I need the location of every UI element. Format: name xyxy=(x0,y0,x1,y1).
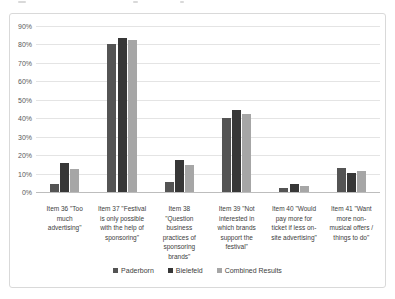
legend-item: Combined Results xyxy=(217,267,282,274)
bar xyxy=(107,44,116,192)
gridline xyxy=(36,26,380,27)
bar xyxy=(175,160,184,192)
legend-label: Paderborn xyxy=(121,267,154,274)
gridline xyxy=(36,81,380,82)
bar xyxy=(279,188,288,192)
gridline xyxy=(36,63,380,64)
bar xyxy=(165,182,174,192)
category-label: Item 39 "Not interested in which brands … xyxy=(208,204,265,261)
bar xyxy=(232,110,241,192)
bar xyxy=(347,173,356,192)
legend-item: Paderborn xyxy=(113,267,154,274)
legend-label: Combined Results xyxy=(225,267,282,274)
gridline xyxy=(36,44,380,45)
y-tick-label: 30% xyxy=(18,133,32,140)
bar xyxy=(70,169,79,192)
bar xyxy=(222,118,231,192)
legend-label: Bielefeld xyxy=(176,267,203,274)
category-axis: Item 36 "Too much advertising"Item 37 "F… xyxy=(36,204,380,261)
legend-swatch xyxy=(168,268,173,273)
category-label: Item 38 "Question business practices of … xyxy=(151,204,208,261)
cropped-text-artifact xyxy=(18,1,26,3)
bar xyxy=(300,186,309,192)
category-label: Item 40 "Would pay more for ticket if le… xyxy=(265,204,322,261)
gridline xyxy=(36,137,380,138)
y-tick-label: 80% xyxy=(18,41,32,48)
x-axis-line xyxy=(36,192,380,193)
bar xyxy=(242,114,251,192)
bar xyxy=(60,163,69,192)
y-tick-label: 0% xyxy=(22,189,32,196)
gridline xyxy=(36,100,380,101)
y-tick-label: 10% xyxy=(18,170,32,177)
bar xyxy=(118,38,127,192)
y-tick-label: 60% xyxy=(18,78,32,85)
gridline xyxy=(36,174,380,175)
legend-swatch xyxy=(113,268,118,273)
bar xyxy=(185,165,194,192)
legend-item: Bielefeld xyxy=(168,267,203,274)
bar xyxy=(290,184,299,192)
category-label: Item 36 "Too much advertising" xyxy=(36,204,93,261)
legend: PaderbornBielefeldCombined Results xyxy=(10,267,385,274)
bar-chart: 0%10%20%30%40%50%60%70%80%90% Item 36 "T… xyxy=(9,13,386,288)
category-label: Item 37 "Festival is only possible with … xyxy=(93,204,150,261)
cropped-text-artifact xyxy=(133,1,138,3)
gridline xyxy=(36,118,380,119)
category-label: Item 41 "Want more non-musical offers / … xyxy=(323,204,380,261)
bar xyxy=(337,168,346,192)
bar xyxy=(357,171,366,192)
gridline xyxy=(36,155,380,156)
y-tick-label: 40% xyxy=(18,115,32,122)
y-tick-label: 90% xyxy=(18,23,32,30)
legend-swatch xyxy=(217,268,222,273)
y-tick-label: 50% xyxy=(18,96,32,103)
plot-area: 0%10%20%30%40%50%60%70%80%90% xyxy=(36,26,380,192)
bar xyxy=(128,40,137,192)
bar xyxy=(50,184,59,192)
y-tick-label: 20% xyxy=(18,152,32,159)
cropped-text-artifact xyxy=(180,1,184,3)
y-tick-label: 70% xyxy=(18,59,32,66)
